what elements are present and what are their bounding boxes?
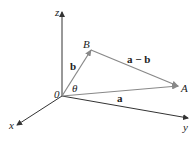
x-axis-label: x <box>8 119 14 131</box>
z-axis-label: z <box>54 6 60 18</box>
vector-b-label: b <box>70 60 76 72</box>
vector-a-label: a <box>117 92 123 104</box>
x-axis <box>17 96 62 125</box>
angle-theta-label: θ <box>72 82 78 94</box>
point-b-label: B <box>83 38 90 50</box>
vector-diagram: z x y 0 B A b a − b a θ <box>0 0 196 146</box>
y-axis-label: y <box>182 121 188 133</box>
y-axis <box>62 96 188 118</box>
point-a-label: A <box>180 82 188 94</box>
origin-label: 0 <box>54 88 60 100</box>
vector-a-minus-b-label: a − b <box>127 53 150 65</box>
